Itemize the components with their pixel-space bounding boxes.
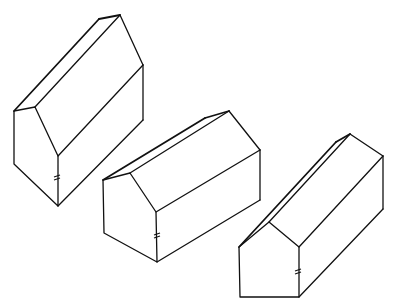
houses-drawing	[0, 0, 398, 308]
front-gable-face	[14, 107, 58, 206]
figure-canvas	[0, 0, 398, 308]
equal-length-hash-icon	[295, 269, 301, 274]
equal-length-hash-icon	[54, 175, 60, 180]
front-gable-face	[239, 222, 299, 297]
house-1	[14, 15, 143, 206]
house-2	[103, 111, 260, 262]
front-gable-face	[103, 173, 157, 262]
